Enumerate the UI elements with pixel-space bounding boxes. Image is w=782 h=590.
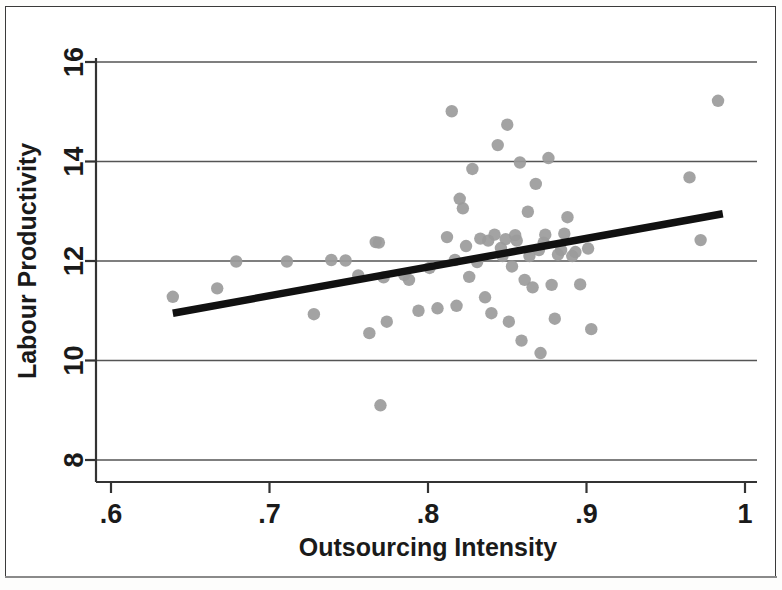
- y-axis-title: Labour Productivity: [13, 143, 41, 379]
- data-point: [339, 254, 351, 266]
- data-point: [712, 95, 724, 107]
- data-point: [466, 163, 478, 175]
- data-point: [582, 242, 594, 254]
- data-point: [534, 347, 546, 359]
- data-point: [485, 307, 497, 319]
- data-point: [503, 316, 515, 328]
- data-point: [325, 254, 337, 266]
- x-tick-label: .6: [100, 499, 123, 529]
- data-point: [694, 234, 706, 246]
- data-point: [501, 118, 513, 130]
- data-point: [363, 327, 375, 339]
- data-point: [522, 206, 534, 218]
- x-tick-label: 1: [737, 499, 752, 529]
- data-point: [545, 279, 557, 291]
- y-tick-label: 8: [59, 452, 89, 467]
- data-point: [230, 255, 242, 267]
- data-point: [542, 152, 554, 164]
- x-axis-ticks: .6.7.8.91: [100, 482, 753, 529]
- data-point: [530, 178, 542, 190]
- data-point: [479, 291, 491, 303]
- data-point: [511, 234, 523, 246]
- data-point: [574, 278, 586, 290]
- data-point: [463, 271, 475, 283]
- data-points: [167, 95, 725, 412]
- data-point: [506, 260, 518, 272]
- data-point: [457, 202, 469, 214]
- data-point: [488, 228, 500, 240]
- data-point: [167, 291, 179, 303]
- data-point: [211, 282, 223, 294]
- y-tick-label: 16: [59, 47, 89, 77]
- data-point: [539, 228, 551, 240]
- scatter-plot: .6.7.8.91 810121416 Outsourcing Intensit…: [0, 0, 782, 590]
- data-point: [281, 255, 293, 267]
- data-point: [446, 105, 458, 117]
- y-tick-label: 12: [59, 246, 89, 276]
- regression-line: [173, 214, 723, 313]
- data-point: [492, 139, 504, 151]
- data-point: [683, 171, 695, 183]
- figure-container: .6.7.8.91 810121416 Outsourcing Intensit…: [0, 0, 782, 590]
- y-tick-label: 14: [59, 146, 89, 176]
- data-point: [561, 211, 573, 223]
- data-point: [460, 240, 472, 252]
- data-point: [569, 246, 581, 258]
- gridlines: [96, 62, 757, 460]
- data-point: [412, 305, 424, 317]
- data-point: [441, 231, 453, 243]
- data-point: [515, 334, 527, 346]
- data-point: [514, 156, 526, 168]
- fit-line: [173, 214, 723, 313]
- y-axis-ticks: 810121416: [59, 47, 96, 468]
- y-tick-label: 10: [59, 345, 89, 375]
- data-point: [381, 316, 393, 328]
- data-point: [403, 274, 415, 286]
- data-point: [526, 281, 538, 293]
- x-tick-label: .7: [258, 499, 281, 529]
- data-point: [431, 302, 443, 314]
- x-tick-label: .8: [417, 499, 440, 529]
- x-tick-label: .9: [575, 499, 598, 529]
- data-point: [374, 399, 386, 411]
- x-axis-title: Outsourcing Intensity: [299, 533, 557, 561]
- data-point: [549, 313, 561, 325]
- data-point: [308, 308, 320, 320]
- data-point: [450, 300, 462, 312]
- data-point: [373, 236, 385, 248]
- data-point: [585, 323, 597, 335]
